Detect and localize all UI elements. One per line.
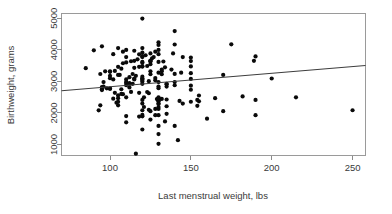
data-point <box>134 152 138 156</box>
data-point <box>131 72 135 76</box>
data-point <box>143 53 147 57</box>
data-point <box>173 29 177 33</box>
x-axis-title: Last menstrual weight, lbs <box>158 190 268 201</box>
data-point <box>350 108 354 112</box>
data-point <box>252 59 256 63</box>
data-point <box>156 132 160 136</box>
data-point <box>152 55 156 59</box>
data-point <box>132 49 136 53</box>
data-point <box>156 95 160 99</box>
data-point <box>181 55 185 59</box>
data-point <box>171 51 175 55</box>
x-tick-label: 250 <box>345 162 361 173</box>
data-point <box>241 94 245 98</box>
data-point <box>98 103 102 107</box>
data-point <box>270 76 274 80</box>
data-point <box>116 46 120 50</box>
data-point <box>101 84 105 88</box>
data-point <box>127 75 131 79</box>
data-point <box>165 104 169 108</box>
data-point <box>153 76 157 80</box>
data-point <box>163 119 167 123</box>
data-point <box>140 75 144 79</box>
data-point <box>147 108 151 112</box>
data-point <box>119 92 123 96</box>
data-point <box>253 98 257 102</box>
data-point <box>148 69 152 73</box>
data-point <box>147 79 151 83</box>
data-point <box>161 59 165 63</box>
data-point <box>213 96 217 100</box>
data-point <box>165 112 169 116</box>
data-point <box>124 55 128 59</box>
data-point <box>84 66 88 70</box>
data-point <box>135 57 139 61</box>
data-point <box>156 60 160 64</box>
data-point <box>156 40 160 44</box>
data-point <box>100 44 104 48</box>
data-point <box>140 60 144 64</box>
data-point <box>156 142 160 146</box>
data-point <box>113 91 117 95</box>
data-point <box>116 96 120 100</box>
data-point <box>195 104 199 108</box>
data-point <box>156 124 160 128</box>
data-point <box>124 48 128 52</box>
data-point <box>140 113 144 117</box>
data-point <box>229 42 233 46</box>
data-point <box>116 73 120 77</box>
data-point <box>113 69 117 73</box>
data-point <box>294 95 298 99</box>
data-point <box>176 138 180 142</box>
data-point <box>253 54 257 58</box>
y-axis-title: Birthweight, grams <box>5 45 16 124</box>
data-point <box>124 60 128 64</box>
data-point <box>132 66 136 70</box>
data-point <box>197 93 201 97</box>
data-point <box>124 95 128 99</box>
data-point <box>148 117 152 121</box>
data-point <box>221 73 225 77</box>
data-point <box>169 67 173 71</box>
data-point <box>195 98 199 102</box>
data-point <box>108 74 112 78</box>
data-point <box>148 51 152 55</box>
data-point <box>145 90 149 94</box>
data-point <box>111 97 115 101</box>
y-tick-label: 5000 <box>48 8 59 29</box>
x-tick-label: 150 <box>183 162 199 173</box>
data-point <box>124 120 128 124</box>
data-point <box>97 108 101 112</box>
data-point <box>221 109 225 113</box>
data-point <box>140 50 144 54</box>
data-point <box>153 113 157 117</box>
data-point <box>140 16 144 20</box>
data-point <box>129 90 133 94</box>
data-point <box>140 101 144 105</box>
data-point <box>92 48 96 52</box>
data-point <box>177 99 181 103</box>
data-point <box>156 48 160 52</box>
data-point <box>140 46 144 50</box>
data-point <box>116 65 120 69</box>
data-point <box>142 95 146 99</box>
data-point <box>205 117 209 121</box>
data-point <box>173 72 177 76</box>
data-point <box>163 65 167 69</box>
data-point <box>173 124 177 128</box>
data-point <box>119 87 123 91</box>
data-point <box>189 100 193 104</box>
data-point <box>103 69 107 73</box>
data-point <box>189 84 193 88</box>
y-tick-label: 2000 <box>48 102 59 123</box>
data-point <box>124 114 128 118</box>
scatter-plot-figure: 10002000300040005000 100150200250 Birthw… <box>0 0 392 214</box>
y-tick-label: 4000 <box>48 39 59 60</box>
data-point <box>101 80 105 84</box>
y-tick-label: 3000 <box>48 71 59 92</box>
data-point <box>111 52 115 56</box>
data-point <box>253 113 257 117</box>
x-tick-label: 100 <box>102 162 118 173</box>
data-point <box>189 88 193 92</box>
data-point <box>140 127 144 131</box>
